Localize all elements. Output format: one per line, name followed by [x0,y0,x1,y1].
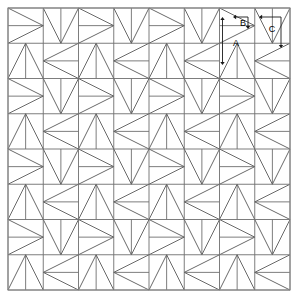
dimension-label-c: C [269,24,276,34]
quilt-pattern-diagram: ABC [0,0,293,305]
quilt-pattern-canvas: ABC [0,0,293,305]
dimension-label-a: A [233,38,239,48]
canvas-background [0,0,293,305]
dimension-label-b: B [240,18,246,28]
